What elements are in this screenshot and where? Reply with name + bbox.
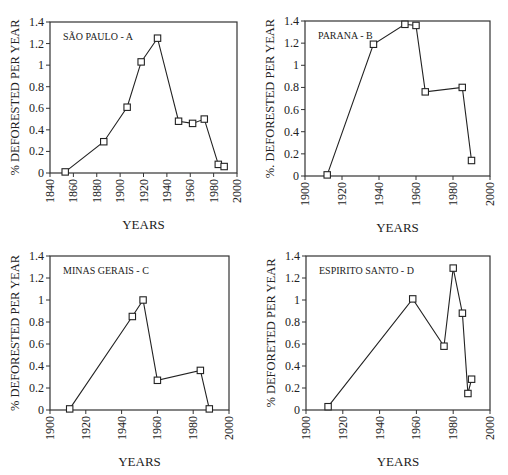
y-tick-label: 0 [38,403,44,417]
data-point-marker [459,84,465,90]
data-point-marker [413,22,419,28]
x-tick-label: 2000 [230,179,244,203]
x-tick-label: 1960 [150,416,164,440]
data-point-marker [468,376,474,382]
data-point-marker [62,169,68,175]
plot-frame [306,256,490,410]
data-point-marker [201,116,207,122]
y-tick-label: 1 [293,58,299,72]
x-tick-label: 2000 [483,182,497,206]
y-tick-label: 1.2 [285,271,300,285]
y-tick-label: 0.6 [29,101,44,115]
data-point-marker [175,118,181,124]
x-tick-label: 1940 [372,182,386,206]
y-tick-label: 0.8 [29,80,44,94]
x-tick-label: 1960 [409,182,423,206]
x-tick-label: 1900 [299,416,313,440]
data-point-marker [410,296,416,302]
plot-frame [305,21,490,176]
x-tick-label: 1920 [137,179,151,203]
data-point-marker [459,310,465,316]
y-axis-label: %. DEFORESTED PER YEAR [263,18,277,178]
x-tick-label: 1900 [298,182,312,206]
chart-canvas: 00.20.40.60.811.21.418401860188019001920… [0,0,508,475]
y-tick-label: 0.4 [285,359,300,373]
data-point-marker [101,139,107,145]
data-point-marker [370,41,376,47]
data-point-marker [140,297,146,303]
x-tick-label: 1900 [43,416,57,440]
chart-panel-d: 00.20.40.60.811.21.419001920194019601980… [264,249,497,469]
x-tick-label: 1980 [186,416,200,440]
data-point-marker [206,406,212,412]
x-tick-label: 1940 [160,179,174,203]
y-tick-label: 1.2 [284,36,299,50]
data-point-marker [325,404,331,410]
data-point-marker [189,120,195,126]
y-tick-label: 0.4 [284,125,299,139]
y-tick-label: 1 [38,293,44,307]
x-tick-label: 1940 [373,416,387,440]
x-tick-label: 1880 [90,179,104,203]
x-tick-label: 2000 [222,416,236,440]
data-point-marker [221,163,227,169]
y-tick-label: 1.4 [29,249,44,263]
data-line [328,268,472,407]
plot-frame [50,256,229,410]
data-point-marker [324,172,330,178]
y-tick-label: 0.2 [29,381,44,395]
y-tick-label: 0.6 [285,337,300,351]
plot-frame [50,22,237,173]
x-tick-label: 1840 [43,179,57,203]
x-tick-label: 1980 [207,179,221,203]
y-tick-label: 0.2 [285,381,300,395]
y-tick-label: 0.4 [29,123,44,137]
x-tick-label: 1920 [335,182,349,206]
x-tick-label: 1960 [183,179,197,203]
y-tick-label: 1.4 [284,14,299,28]
x-tick-label: 2000 [483,416,497,440]
y-tick-label: 1.2 [29,37,44,51]
data-point-marker [468,157,474,163]
x-axis-label: YEARS [122,217,165,232]
y-tick-label: 0 [293,169,299,183]
y-tick-label: 0.6 [29,337,44,351]
data-line [327,24,471,175]
y-axis-label: % DEFORESTED PER YEAR [8,19,22,176]
data-point-marker [441,343,447,349]
x-tick-label: 1940 [115,416,129,440]
data-point-marker [66,406,72,412]
data-point-marker [124,104,130,110]
panel-title: SÃO PAULO - A [63,31,134,42]
y-tick-label: 0.4 [29,359,44,373]
y-tick-label: 0.8 [284,80,299,94]
data-point-marker [450,265,456,271]
data-point-marker [465,390,471,396]
y-tick-label: 1.2 [29,271,44,285]
x-tick-label: 1960 [409,416,423,440]
chart-panel-c: 00.20.40.60.811.21.419001920194019601980… [8,249,236,469]
panel-title: PARANA - B [318,30,373,41]
y-tick-label: 1 [294,293,300,307]
data-point-marker [129,313,135,319]
data-point-marker [154,377,160,383]
y-tick-label: 1.4 [29,15,44,29]
y-axis-label: % DEFORESTED PER YEAR [8,254,22,411]
x-tick-label: 1860 [66,179,80,203]
panel-title: MINAS GERAIS - C [63,265,149,276]
x-axis-label: YEARS [118,454,161,469]
x-axis-label: YEARS [377,454,420,469]
data-point-marker [402,21,408,27]
data-point-marker [422,89,428,95]
data-point-marker [154,35,160,41]
y-tick-label: 0.8 [29,315,44,329]
y-tick-label: 0 [38,166,44,180]
data-point-marker [138,59,144,65]
y-tick-label: 0.8 [285,315,300,329]
x-tick-label: 1980 [446,416,460,440]
x-tick-label: 1920 [79,416,93,440]
data-line [70,300,210,409]
y-tick-label: 0 [294,403,300,417]
y-tick-label: 0.2 [284,147,299,161]
chart-panel-b: 00.20.40.60.811.21.419001920194019601980… [263,14,497,235]
